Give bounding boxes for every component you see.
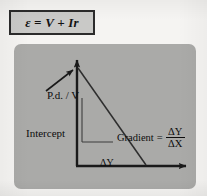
intercept-label: Intercept <box>26 128 65 139</box>
y-axis-label: P.d. / V <box>47 90 79 101</box>
gradient-numerator: ΔY <box>167 126 183 137</box>
emf-equation-text: ε = V + Ir <box>25 15 79 31</box>
gradient-word-label: Gradient <box>117 132 154 143</box>
gradient-denominator: ΔX <box>167 138 183 149</box>
gradient-expression: Gradient = ΔY ΔX <box>117 126 185 150</box>
emf-equation-box: ε = V + Ir <box>9 10 95 35</box>
delta-y-label: ΔY <box>100 158 114 168</box>
graph-panel: P.d. / V Intercept Current / A ΔY ΔX Gra… <box>14 44 196 189</box>
gradient-equals-sign: = <box>157 132 163 143</box>
plotted-line <box>78 68 146 165</box>
screenshot-root: ε = V + Ir <box>0 0 207 196</box>
intercept-pointer-arrow <box>46 70 73 91</box>
gradient-fraction: ΔY ΔX <box>166 126 185 150</box>
